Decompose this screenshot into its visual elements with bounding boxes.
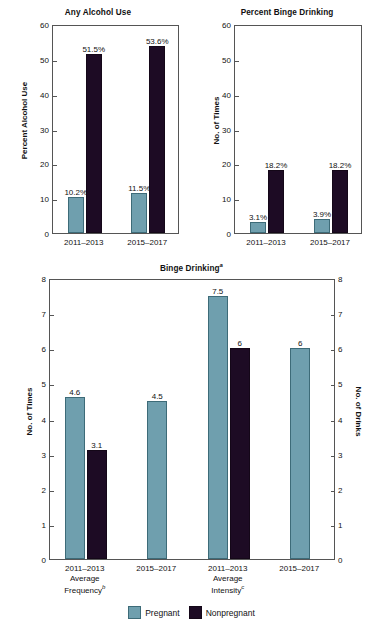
y-tick-mark-right xyxy=(331,526,335,527)
y-tick-mark xyxy=(50,385,54,386)
legend-item-pregnant: Pregnant xyxy=(128,606,180,619)
y-tick-mark xyxy=(50,350,54,351)
x-axis-period: 2015–2017 xyxy=(127,238,167,247)
y-tick-mark xyxy=(50,456,54,457)
x-axis-category-label: 2015–2017 xyxy=(136,564,176,574)
chart-title-any-alcohol-use: Any Alcohol Use xyxy=(8,6,188,17)
bar-value-label: 4.6 xyxy=(69,389,80,397)
x-axis-category-label: 2015–2017 xyxy=(310,238,350,248)
y-tick-label-right: 5 xyxy=(334,381,342,389)
bar-value-label: 6 xyxy=(298,340,302,348)
y-tick-label: 0 xyxy=(45,231,53,239)
y-tick-label: 0 xyxy=(227,231,235,239)
bar-value-label: 3.9% xyxy=(313,211,331,219)
y-tick-mark xyxy=(53,165,57,166)
bar-value-label: 51.5% xyxy=(82,46,105,54)
bar-pregnant-3 xyxy=(290,348,310,559)
y-tick-label: 10 xyxy=(40,196,53,204)
bar-pregnant-1 xyxy=(131,193,147,233)
y-tick-mark xyxy=(53,131,57,132)
y-tick-mark-right xyxy=(331,350,335,351)
y-tick-mark xyxy=(53,61,57,62)
y-tick-mark-right xyxy=(331,315,335,316)
y-tick-mark-right xyxy=(331,421,335,422)
y-tick-mark-right xyxy=(331,491,335,492)
bar-value-label: 7.5 xyxy=(212,288,223,296)
y-axis-label-no-of-drinks-right: No. of Drinks xyxy=(354,367,363,457)
chart-title-binge-drinking: Binge Drinkinga xyxy=(8,262,375,273)
x-axis-group-label: AverageFrequencyb xyxy=(64,574,105,596)
y-tick-label-right: 3 xyxy=(334,452,342,460)
y-tick-mark xyxy=(53,96,57,97)
bar-value-label: 53.6% xyxy=(146,38,169,46)
y-tick-label: 7 xyxy=(42,311,50,319)
y-tick-mark-right xyxy=(331,456,335,457)
plot-area-percent-binge-drinking: 01020304050603.1%18.2%3.9%18.2% xyxy=(234,25,362,234)
y-axis-label-no-of-times: No. of Times xyxy=(212,76,221,166)
y-tick-mark xyxy=(235,61,239,62)
y-axis-label-no-of-times-left: No. of Times xyxy=(25,367,34,457)
y-tick-label: 60 xyxy=(222,22,235,30)
bar-value-label: 3.1% xyxy=(249,214,267,222)
y-axis-label-percent-alcohol-use: Percent Alcohol Use xyxy=(20,61,29,181)
legend-swatch-nonpregnant-icon xyxy=(189,606,202,619)
y-tick-label-right: 8 xyxy=(334,276,342,284)
y-tick-label: 50 xyxy=(40,57,53,65)
y-tick-label: 40 xyxy=(40,92,53,100)
bar-pregnant-1 xyxy=(314,219,330,233)
chart-binge-drinking: Binge Drinkinga No. of Times No. of Drin… xyxy=(8,262,375,622)
bar-value-label: 18.2% xyxy=(265,162,288,170)
y-tick-label: 3 xyxy=(42,452,50,460)
y-tick-mark xyxy=(235,96,239,97)
bar-nonpregnant-1 xyxy=(149,46,165,233)
x-axis-group-label: AverageIntensityc xyxy=(208,574,247,596)
legend-swatch-pregnant-icon xyxy=(128,606,141,619)
y-tick-label: 30 xyxy=(222,127,235,135)
bar-value-label: 10.2% xyxy=(64,189,87,197)
y-tick-mark xyxy=(50,315,54,316)
bar-nonpregnant-0 xyxy=(268,170,284,233)
bar-pregnant-1 xyxy=(147,401,167,559)
y-tick-label-right: 7 xyxy=(334,311,342,319)
y-tick-mark xyxy=(53,200,57,201)
x-axis-period: 2011–2013 xyxy=(65,564,104,573)
y-tick-label-right: 1 xyxy=(334,522,342,530)
y-tick-mark xyxy=(50,421,54,422)
y-tick-mark xyxy=(235,200,239,201)
y-tick-mark-right xyxy=(331,385,335,386)
y-tick-label: 20 xyxy=(222,161,235,169)
plot-area-binge-drinking: 0123456780123456784.63.14.57.566 xyxy=(49,279,335,560)
y-tick-label: 40 xyxy=(222,92,235,100)
y-tick-mark xyxy=(235,165,239,166)
y-tick-mark xyxy=(50,491,54,492)
figure-root: Any Alcohol Use Percent Alcohol Use 0102… xyxy=(0,0,383,629)
legend-label-pregnant: Pregnant xyxy=(145,608,180,618)
bar-value-label: 4.5 xyxy=(152,393,163,401)
x-axis-category-label: 2015–2017 xyxy=(127,238,167,248)
bar-pregnant-0 xyxy=(65,397,85,559)
x-axis-category-label: 2011–2013 xyxy=(246,238,285,248)
y-tick-mark xyxy=(235,131,239,132)
y-tick-label: 4 xyxy=(42,417,50,425)
y-tick-label: 30 xyxy=(40,127,53,135)
bar-pregnant-2 xyxy=(208,296,228,559)
x-axis-category-label: 2011–2013 xyxy=(64,238,103,248)
bar-value-label: 18.2% xyxy=(329,162,352,170)
x-axis-category-label: 2015–2017 xyxy=(279,564,319,574)
y-tick-label: 60 xyxy=(40,22,53,30)
y-tick-label-right: 6 xyxy=(334,346,342,354)
y-tick-label: 1 xyxy=(42,522,50,530)
figure-legend: Pregnant Nonpregnant xyxy=(0,606,383,619)
y-tick-label: 50 xyxy=(222,57,235,65)
legend-item-nonpregnant: Nonpregnant xyxy=(189,606,255,619)
y-tick-label: 20 xyxy=(40,161,53,169)
bar-nonpregnant-2 xyxy=(230,348,250,559)
x-axis-period: 2011–2013 xyxy=(64,238,103,247)
legend-label-nonpregnant: Nonpregnant xyxy=(206,608,255,618)
bar-nonpregnant-0 xyxy=(86,54,102,233)
x-axis-period: 2015–2017 xyxy=(136,564,176,573)
y-tick-label-right: 0 xyxy=(334,557,342,565)
x-axis-category-label: 2011–2013AverageIntensityc xyxy=(208,564,247,596)
bar-pregnant-0 xyxy=(68,197,84,233)
bar-value-label: 11.5% xyxy=(128,185,150,193)
